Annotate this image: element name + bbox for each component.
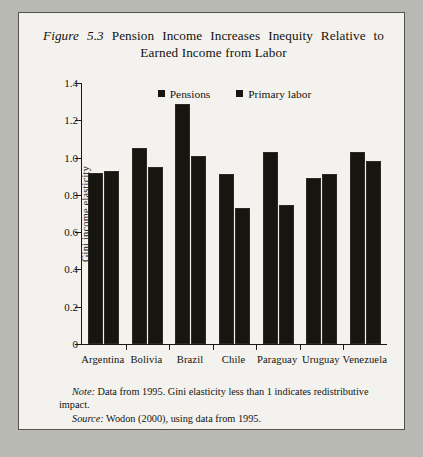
figure-frame: Figure 5.3 Pension Income Increases Ineq… (18, 12, 405, 430)
bar-group (82, 83, 126, 344)
x-tick-mark (213, 344, 214, 350)
x-axis-labels: ArgentinaBoliviaBrazilChileParaguayUrugu… (81, 354, 387, 365)
bar-primary-labor (104, 171, 119, 344)
y-tick-label: 0.8 (64, 189, 78, 201)
note-line: Note: Data from 1995. Gini elasticity le… (59, 385, 389, 411)
x-axis-label: Argentina (81, 354, 125, 365)
figure-notes: Note: Data from 1995. Gini elasticity le… (59, 385, 389, 427)
y-tick-label: 0.4 (64, 263, 78, 275)
bar-pensions (88, 173, 103, 345)
x-tick-mark (300, 344, 301, 350)
source-line: Source: Wodon (2000), using data from 19… (59, 412, 389, 425)
bar-pensions (263, 152, 278, 344)
note-label: Note: (72, 386, 95, 397)
y-tick-label: 1.0 (64, 152, 78, 164)
y-tick-label: 1.4 (64, 77, 78, 89)
y-tick-label: 0.2 (64, 301, 78, 313)
x-axis-label: Venezuela (343, 354, 387, 365)
chart-plot: Gini income elasticity 1.41.21.00.80.60.… (81, 83, 387, 345)
x-axis-label: Chile (212, 354, 256, 365)
bar-group (256, 83, 300, 344)
bar-primary-labor (148, 167, 163, 344)
figure-title-line2: Earned Income from Labor (41, 44, 386, 61)
bar-group (169, 83, 213, 344)
bar-primary-labor (279, 205, 294, 344)
figure-number: Figure 5.3 (43, 28, 104, 43)
bar-pensions (350, 152, 365, 344)
bar-pensions (306, 178, 321, 344)
x-tick-mark (169, 344, 170, 350)
bar-group (126, 83, 170, 344)
bar-pensions (219, 174, 234, 344)
x-tick-mark (126, 344, 127, 350)
x-axis-label: Bolivia (125, 354, 169, 365)
bar-group (343, 83, 387, 344)
y-tick-label: 0 (73, 338, 79, 350)
bar-primary-labor (235, 208, 250, 344)
source-text: Wodon (2000), using data from 1995. (104, 413, 261, 424)
figure-title: Figure 5.3 Pension Income Increases Ineq… (41, 27, 386, 61)
bar-pensions (175, 104, 190, 344)
note-text: Data from 1995. Gini elasticity less tha… (59, 386, 369, 410)
y-tick-label: 1.2 (64, 114, 78, 126)
bar-group (213, 83, 257, 344)
x-axis-label: Paraguay (255, 354, 299, 365)
plot-area: 1.41.21.00.80.60.40.20 Pensions Primary … (81, 83, 387, 345)
source-label: Source: (72, 413, 104, 424)
y-tick-label: 0.6 (64, 226, 78, 238)
x-axis-label: Brazil (168, 354, 212, 365)
bar-primary-labor (366, 161, 381, 344)
bar-groups (82, 83, 387, 344)
x-tick-mark (256, 344, 257, 350)
x-tick-mark (343, 344, 344, 350)
bar-primary-labor (191, 156, 206, 344)
bar-primary-labor (322, 174, 337, 344)
figure-title-line1: Figure 5.3 Pension Income Increases Ineq… (41, 27, 386, 44)
figure-title-text1: Pension Income Increases Inequity Relati… (112, 28, 384, 43)
bar-group (300, 83, 344, 344)
bar-pensions (132, 148, 147, 344)
x-axis-label: Uruguay (299, 354, 343, 365)
